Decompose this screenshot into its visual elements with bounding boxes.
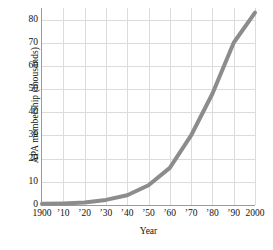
- gridline-vertical: [255, 8, 256, 205]
- x-tick-label: ’80: [206, 209, 219, 219]
- y-tick-label: 20: [29, 154, 39, 164]
- x-axis-spine: [41, 205, 255, 206]
- y-tick-label: 10: [29, 177, 39, 187]
- y-tick-label: 60: [29, 61, 39, 71]
- x-tick-label: ’10: [57, 209, 70, 219]
- chart-container: APA membership (thousands) 0102030405060…: [0, 0, 273, 250]
- plot-area: 01020304050607080 1900’10’20’30’40’50’60…: [42, 8, 255, 205]
- x-tick-label: ’30: [100, 209, 113, 219]
- y-tick-label: 30: [29, 131, 39, 141]
- y-tick-label: 70: [29, 38, 39, 48]
- x-tick-label: ’70: [185, 209, 198, 219]
- y-tick-label: 80: [29, 15, 39, 25]
- y-tick-label: 40: [29, 108, 39, 118]
- x-tick-label: ’50: [142, 209, 155, 219]
- x-axis-title: Year: [42, 226, 255, 236]
- x-tick-label: ’60: [163, 209, 176, 219]
- x-tick-label: ’90: [227, 209, 240, 219]
- y-tick-label: 50: [29, 84, 39, 94]
- x-tick-label: ’40: [121, 209, 134, 219]
- data-series-line: [42, 8, 255, 205]
- x-tick-label: ’20: [78, 209, 91, 219]
- x-tick-label: 2000: [246, 209, 265, 219]
- x-tick-label: 1900: [33, 209, 52, 219]
